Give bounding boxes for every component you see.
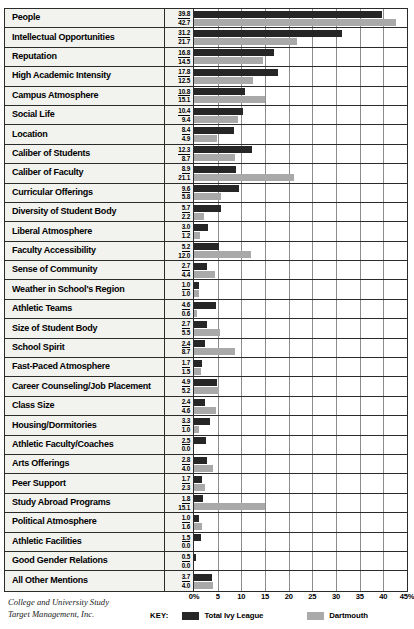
category-cell: Caliber of Faculty bbox=[5, 164, 165, 182]
value-ivy: 12.3 bbox=[178, 146, 190, 155]
plot-cell bbox=[194, 552, 407, 570]
category-cell: Liberal Atmosphere bbox=[5, 222, 165, 240]
bar-ivy bbox=[194, 205, 221, 212]
value-cell: 2.48.7 bbox=[165, 339, 194, 357]
bar-ivy bbox=[194, 418, 210, 425]
plot-cell bbox=[194, 513, 407, 531]
value-dartmouth: 1.5 bbox=[182, 368, 190, 376]
value-cell: 31.221.7 bbox=[165, 28, 194, 46]
bar-group bbox=[194, 339, 407, 357]
category-cell: High Academic Intensity bbox=[5, 67, 165, 85]
value-ivy: 8.4 bbox=[182, 126, 190, 135]
bar-dartmouth bbox=[194, 484, 205, 491]
value-ivy: 2.4 bbox=[182, 340, 190, 349]
value-ivy: 3.3 bbox=[182, 417, 190, 426]
value-cell: 8.921.1 bbox=[165, 164, 194, 182]
bar-ivy bbox=[194, 263, 207, 270]
category-cell: People bbox=[5, 9, 165, 27]
category-label: Location bbox=[12, 130, 48, 140]
value-ivy: 10.4 bbox=[178, 107, 190, 116]
category-label: Good Gender Relations bbox=[12, 556, 108, 566]
bar-ivy bbox=[194, 30, 342, 37]
source-line-2: Target Management, Inc. bbox=[8, 609, 158, 621]
category-label: Size of Student Body bbox=[12, 324, 97, 334]
axis-tick-label: 35 bbox=[356, 592, 364, 601]
plot-cell bbox=[194, 28, 407, 46]
legend-label-ivy: Total Ivy League bbox=[204, 611, 263, 620]
value-dartmouth: 12.0 bbox=[178, 252, 190, 260]
plot-cell bbox=[194, 164, 407, 182]
value-dartmouth: 4.0 bbox=[182, 465, 190, 473]
value-ivy: 16.8 bbox=[178, 49, 190, 58]
category-cell: All Other Mentions bbox=[5, 571, 165, 590]
plot-cell bbox=[194, 319, 407, 337]
bar-group bbox=[194, 261, 407, 279]
bar-dartmouth bbox=[194, 154, 235, 161]
axis-tick-label: 30 bbox=[332, 592, 340, 601]
value-ivy: 2.7 bbox=[182, 320, 190, 329]
chart-row: Caliber of Faculty8.921.1 bbox=[5, 164, 407, 183]
value-cell: 4.60.6 bbox=[165, 300, 194, 318]
bar-group bbox=[194, 106, 407, 124]
axis-tick-label: 10 bbox=[237, 592, 245, 601]
bar-group bbox=[194, 571, 407, 590]
category-cell: Curricular Offerings bbox=[5, 184, 165, 202]
chart-row: Good Gender Relations0.50.0 bbox=[5, 552, 407, 571]
bar-dartmouth bbox=[194, 387, 219, 394]
value-dartmouth: 5.2 bbox=[182, 387, 190, 395]
bar-dartmouth bbox=[194, 503, 265, 510]
bar-group bbox=[194, 145, 407, 163]
value-dartmouth: 42.7 bbox=[178, 19, 190, 27]
value-ivy: 4.9 bbox=[182, 378, 190, 387]
category-cell: Campus Atmosphere bbox=[5, 87, 165, 105]
value-dartmouth: 4.4 bbox=[182, 271, 190, 279]
value-cell: 0.50.0 bbox=[165, 552, 194, 570]
bar-ivy bbox=[194, 321, 207, 328]
axis-tick-label: 40 bbox=[379, 592, 387, 601]
bar-group bbox=[194, 474, 407, 492]
bar-ivy bbox=[194, 495, 203, 502]
plot-cell bbox=[194, 533, 407, 551]
bar-dartmouth bbox=[194, 174, 294, 181]
chart-row: Diversity of Student Body5.72.2 bbox=[5, 203, 407, 222]
value-dartmouth: 4.6 bbox=[182, 407, 190, 415]
bar-group bbox=[194, 87, 407, 105]
plot-cell bbox=[194, 377, 407, 395]
chart-container: People39.842.7Intellectual Opportunities… bbox=[4, 8, 408, 592]
legend-label-dartmouth: Dartmouth bbox=[329, 611, 368, 620]
category-cell: Athletic Faculty/Coaches bbox=[5, 436, 165, 454]
chart-row: Social Life10.49.4 bbox=[5, 106, 407, 125]
axis-tick-label: 5 bbox=[216, 592, 220, 601]
chart-row: Housing/Dormitories3.31.0 bbox=[5, 416, 407, 435]
bar-group bbox=[194, 416, 407, 434]
category-label: Class Size bbox=[12, 401, 54, 411]
value-dartmouth: 15.1 bbox=[178, 504, 190, 512]
category-label: Diversity of Student Body bbox=[12, 207, 116, 217]
value-ivy: 10.8 bbox=[178, 88, 190, 97]
category-cell: Social Life bbox=[5, 106, 165, 124]
bar-dartmouth bbox=[194, 582, 213, 589]
value-cell: 3.31.0 bbox=[165, 416, 194, 434]
category-cell: Housing/Dormitories bbox=[5, 416, 165, 434]
category-label: People bbox=[12, 13, 40, 23]
category-cell: Good Gender Relations bbox=[5, 552, 165, 570]
bar-group bbox=[194, 358, 407, 376]
value-dartmouth: 0.6 bbox=[182, 310, 190, 318]
bar-dartmouth bbox=[194, 348, 235, 355]
plot-cell bbox=[194, 87, 407, 105]
value-ivy: 1.5 bbox=[182, 534, 190, 543]
value-ivy: 1.0 bbox=[182, 514, 190, 523]
bar-group bbox=[194, 203, 407, 221]
value-cell: 1.50.0 bbox=[165, 533, 194, 551]
value-cell: 3.74.0 bbox=[165, 571, 194, 590]
bar-group bbox=[194, 9, 407, 27]
category-label: Campus Atmosphere bbox=[12, 91, 98, 101]
plot-cell bbox=[194, 106, 407, 124]
plot-cell bbox=[194, 280, 407, 298]
value-cell: 1.01.6 bbox=[165, 513, 194, 531]
chart-row: Political Atmosphere1.01.6 bbox=[5, 513, 407, 532]
bar-group bbox=[194, 48, 407, 66]
bar-dartmouth bbox=[194, 19, 396, 26]
category-label: Athletic Teams bbox=[12, 304, 72, 314]
bar-ivy bbox=[194, 166, 236, 173]
